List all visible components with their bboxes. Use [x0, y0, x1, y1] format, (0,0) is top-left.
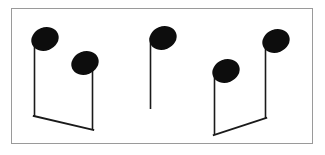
notehead: [259, 25, 294, 57]
music-notation-canvas: [0, 0, 325, 155]
note-group-single-note-middle: [146, 22, 181, 109]
notehead: [28, 23, 63, 55]
note-group-beamed-pair-left: [28, 23, 103, 130]
notehead: [68, 47, 103, 79]
beam-connector: [34, 116, 94, 130]
figure-root: Musical notation figure: [0, 0, 325, 155]
note-group-beamed-pair-right: [209, 25, 294, 135]
beam-connector: [214, 118, 267, 135]
